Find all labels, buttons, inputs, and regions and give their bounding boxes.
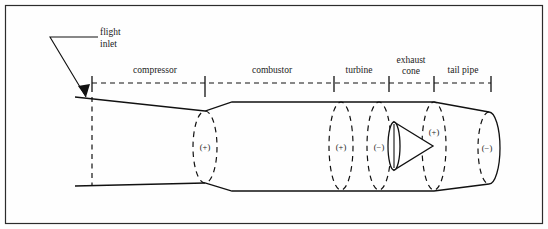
station-reference-line xyxy=(92,76,491,97)
flight-inlet-arrowhead xyxy=(78,84,90,97)
station-label-exhaust-cone-line1: exhaust xyxy=(396,55,425,65)
sign-marker-cone-exit: (+) xyxy=(429,127,440,137)
sign-marker-combustor-exit: (+) xyxy=(336,142,347,152)
flight-inlet-callout: flight inlet xyxy=(50,27,121,97)
station-label-exhaust-cone-line2: cone xyxy=(402,66,420,76)
section-ellipses xyxy=(193,102,500,190)
flight-inlet-arrow-line xyxy=(50,37,98,97)
station-label-compressor: compressor xyxy=(133,65,178,75)
sign-marker-compressor-exit: (+) xyxy=(200,142,211,152)
turbojet-engine-figure: flight inlet compressor combustor turbin… xyxy=(0,0,548,229)
station-label-combustor: combustor xyxy=(252,65,293,75)
station-labels: compressor combustor turbine exhaust con… xyxy=(133,55,478,76)
sign-markers: (+) (+) (−) (+) (−) xyxy=(200,127,493,153)
flight-inlet-label-line1: flight xyxy=(100,27,121,37)
sign-marker-nozzle-exit: (−) xyxy=(482,143,493,153)
exhaust-cone-group xyxy=(388,122,433,170)
station-label-turbine: turbine xyxy=(346,65,373,75)
station-label-tail-pipe: tail pipe xyxy=(448,65,479,75)
sign-marker-turbine-exit: (−) xyxy=(374,142,385,152)
nacelle-lower-profile xyxy=(75,183,489,191)
flight-inlet-label-line2: inlet xyxy=(100,39,117,49)
